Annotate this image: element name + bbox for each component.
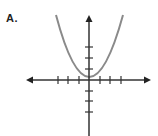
coordinate-plane bbox=[0, 0, 158, 136]
x-axis-right-arrow-icon bbox=[144, 77, 151, 84]
y-axis-up-arrow-icon bbox=[86, 15, 93, 22]
x-axis-left-arrow-icon bbox=[26, 77, 33, 84]
